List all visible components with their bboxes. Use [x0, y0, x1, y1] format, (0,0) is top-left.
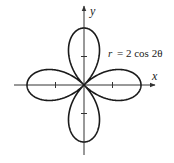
polar-rose-figure: x y r = 2 cos 2θ	[0, 0, 174, 163]
equation-lhs: r	[108, 47, 113, 59]
x-axis-label: x	[151, 69, 158, 83]
equation-annotation: r = 2 cos 2θ	[108, 47, 162, 59]
equation-rhs: = 2 cos 2θ	[117, 47, 162, 59]
y-axis-label: y	[89, 4, 96, 18]
